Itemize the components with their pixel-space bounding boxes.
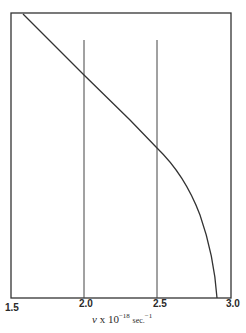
- x-tick-3.0: 3.0: [226, 298, 240, 309]
- chart-plot: [0, 0, 246, 333]
- exponent: −18: [119, 312, 130, 320]
- unit: sec.: [133, 316, 145, 325]
- x-tick-2.5: 2.5: [153, 298, 167, 309]
- data-curve: [23, 14, 217, 298]
- unit-exponent: −1: [145, 312, 152, 320]
- x-axis-label: ν x 10−18 sec.−1: [92, 312, 152, 325]
- plot-frame: [11, 13, 231, 298]
- x-tick-2.0: 2.0: [79, 298, 93, 309]
- x-tick-1.5: 1.5: [5, 302, 19, 313]
- times-ten: x 10: [97, 313, 119, 325]
